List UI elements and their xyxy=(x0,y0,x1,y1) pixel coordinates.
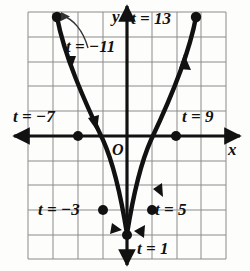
label-t-1: t = 1 xyxy=(137,240,168,257)
point-t-13 xyxy=(191,12,201,22)
point-t-neg-3 xyxy=(98,205,108,215)
label-t-13: t = 13 xyxy=(131,10,171,27)
point-t-1 xyxy=(122,230,132,240)
label-t-neg-3: t = −3 xyxy=(38,201,80,218)
origin-label: O xyxy=(112,142,124,158)
point-t-neg-11 xyxy=(52,12,62,22)
label-t-9: t = 9 xyxy=(182,108,213,125)
graph-figure: t = −11 t = 13 t = −7 t = 9 t = −3 t = 5… xyxy=(0,0,250,271)
point-t-9 xyxy=(171,131,181,141)
y-axis-label: y xyxy=(112,8,120,25)
label-t-neg-7: t = −7 xyxy=(13,108,55,125)
coordinate-plane-svg xyxy=(0,0,250,271)
point-t-neg-7 xyxy=(73,131,83,141)
label-t-5: t = 5 xyxy=(155,201,186,218)
label-t-neg-11: t = −11 xyxy=(66,38,115,55)
x-axis-label: x xyxy=(228,141,237,158)
